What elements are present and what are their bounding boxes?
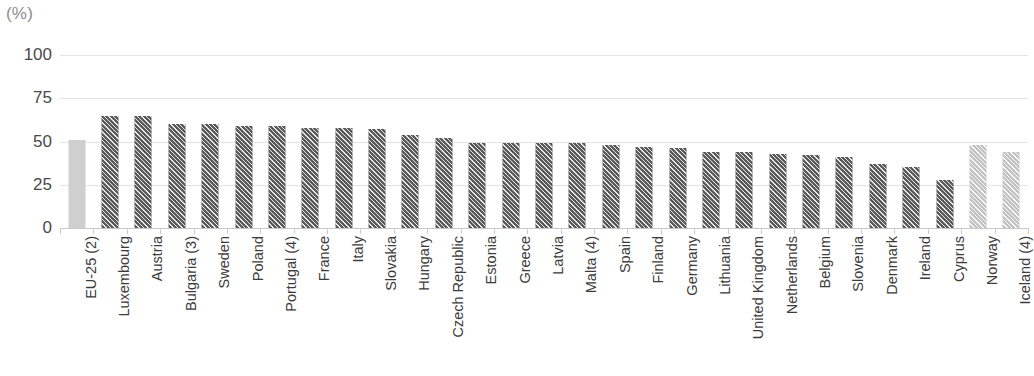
x-tick [260,228,261,234]
x-axis-label-slot: Belgium [794,236,827,376]
x-tick [527,228,528,234]
y-axis: 0255075100 [0,55,52,228]
bar[interactable] [469,143,486,228]
bar[interactable] [769,154,786,228]
bar-slot [561,55,594,228]
bar[interactable] [803,155,820,228]
x-tick [60,228,61,234]
x-tick [194,228,195,234]
x-axis-label-slot: Finland [627,236,660,376]
y-tick-label-100: 100 [6,45,52,65]
bar-slot [360,55,393,228]
bar-slot [894,55,927,228]
bar[interactable] [502,143,519,228]
x-tick [661,228,662,234]
bar-slot [961,55,994,228]
x-axis-label-slot: Latvia [527,236,560,376]
bar[interactable] [302,128,319,228]
x-axis-label-slot: Slovakia [360,236,393,376]
x-tick [360,228,361,234]
x-tick [494,228,495,234]
x-axis-label-slot: Portugal (4) [260,236,293,376]
bar-slot [194,55,227,228]
x-axis-label-slot: Ireland [894,236,927,376]
y-tick-label-75: 75 [6,88,52,108]
bar-slot [661,55,694,228]
bar[interactable] [702,152,719,228]
x-tick [694,228,695,234]
bar[interactable] [268,126,285,228]
bar[interactable] [535,143,552,228]
bar-slot [694,55,727,228]
x-axis-label-slot: Malta (4) [561,236,594,376]
bar-slot [327,55,360,228]
x-axis-label-slot: Greece [494,236,527,376]
x-tick [761,228,762,234]
bar-slot [394,55,427,228]
x-tick [961,228,962,234]
bar[interactable] [1003,152,1020,228]
y-tick-label-50: 50 [6,132,52,152]
x-axis-label-slot: EU-25 (2) [60,236,93,376]
x-tick [828,228,829,234]
bar[interactable] [669,148,686,228]
bar-slot [928,55,961,228]
bar[interactable] [736,152,753,228]
x-tick [794,228,795,234]
bar-slot [294,55,327,228]
x-tick [728,228,729,234]
bar[interactable] [135,116,152,228]
x-tick [127,228,128,234]
bar[interactable] [869,164,886,228]
x-axis-label-slot: Norway [961,236,994,376]
x-tick [861,228,862,234]
bar-slot [861,55,894,228]
x-axis-label-slot: Luxembourg [93,236,126,376]
bar[interactable] [202,124,219,228]
bar-slot [93,55,126,228]
x-tick [160,228,161,234]
x-axis-label-slot: France [294,236,327,376]
bar[interactable] [369,129,386,228]
bar[interactable] [168,124,185,228]
bar[interactable] [102,116,119,228]
x-axis-label-slot: Estonia [461,236,494,376]
bar[interactable] [602,145,619,228]
x-axis-label-slot: Italy [327,236,360,376]
bar[interactable] [402,135,419,228]
bar-slot [427,55,460,228]
x-tick [93,228,94,234]
x-tick [294,228,295,234]
x-axis-label-slot: United Kingdom [728,236,761,376]
x-axis-label-slot: Poland [227,236,260,376]
x-tick [928,228,929,234]
x-tick [394,228,395,234]
bar-slot [627,55,660,228]
bar[interactable] [235,126,252,228]
bar-slot [160,55,193,228]
bar-slot [494,55,527,228]
bar[interactable] [68,140,85,228]
bar[interactable] [569,143,586,228]
bar[interactable] [636,147,653,228]
bar-slot [127,55,160,228]
x-tick [561,228,562,234]
x-axis-label: Iceland (4) [1019,236,1034,305]
bar-slot [594,55,627,228]
bars-layer [60,55,1028,228]
bar[interactable] [969,145,986,228]
bar-slot [527,55,560,228]
bar[interactable] [435,138,452,228]
x-axis-labels: EU-25 (2)LuxembourgAustriaBulgaria (3)Sw… [60,236,1028,376]
bar[interactable] [903,167,920,228]
bar[interactable] [936,180,953,228]
y-tick-label-25: 25 [6,175,52,195]
x-axis-label-slot: Czech Republic [427,236,460,376]
bar[interactable] [836,157,853,228]
x-axis-label-slot: Cyprus [928,236,961,376]
bar[interactable] [335,128,352,228]
x-axis-label-slot: Germany [661,236,694,376]
x-axis-label-slot: Netherlands [761,236,794,376]
x-tick [427,228,428,234]
